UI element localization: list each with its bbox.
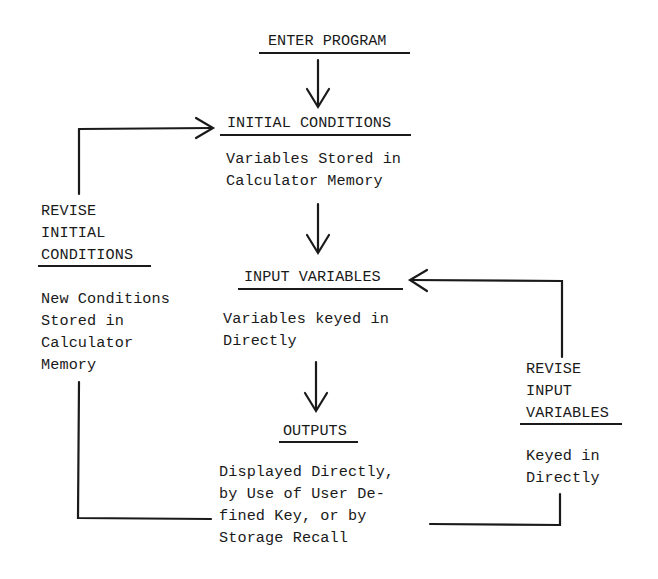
flowchart: ENTER PROGRAM INITIAL CONDITIONS Variabl… [0, 0, 658, 579]
node-revise-input-title-line: VARIABLES [526, 402, 609, 424]
underline [238, 288, 403, 290]
node-revise-initial-desc-line: Calculator [41, 332, 133, 354]
node-revise-initial-desc-line: Memory [41, 354, 96, 376]
node-outputs-desc-line: Storage Recall [219, 527, 348, 549]
arrow-initial-to-input [307, 204, 329, 253]
node-revise-initial-desc-line: New Conditions [41, 288, 170, 310]
node-initial-conditions-title: INITIAL CONDITIONS [227, 113, 391, 133]
arrow-enter-to-initial [307, 60, 329, 107]
node-initial-conditions-desc-line: Variables Stored in [226, 148, 401, 170]
node-revise-input-title-line: INPUT [526, 380, 572, 402]
node-revise-initial-title-line: INITIAL [41, 222, 106, 244]
node-input-variables-title: INPUT VARIABLES [244, 267, 381, 287]
underline [220, 134, 411, 136]
node-input-variables-desc-line: Variables keyed in [223, 308, 389, 330]
node-revise-input-title-line: REVISE [526, 358, 581, 380]
node-outputs-desc-line: by Use of User De- [219, 483, 385, 505]
node-revise-input-desc-line: Directly [526, 467, 600, 489]
node-input-variables-desc-line: Directly [223, 330, 297, 352]
node-revise-initial-desc-line: Stored in [41, 310, 124, 332]
underline [520, 423, 622, 425]
underline [279, 441, 358, 443]
arrow-input-to-outputs [305, 362, 327, 411]
node-enter-program-title: ENTER PROGRAM [268, 31, 386, 51]
underline [38, 265, 151, 267]
node-revise-initial-title-line: CONDITIONS [41, 244, 133, 266]
node-initial-conditions-desc-line: Calculator Memory [226, 170, 383, 192]
node-outputs-desc-line: Displayed Directly, [219, 461, 394, 483]
node-revise-input-desc-line: Keyed in [526, 445, 600, 467]
node-outputs-desc-line: fined Key, or by [219, 505, 366, 527]
underline [259, 52, 410, 54]
node-outputs-title: OUTPUTS [283, 421, 347, 441]
node-revise-initial-title-line: REVISE [41, 200, 96, 222]
